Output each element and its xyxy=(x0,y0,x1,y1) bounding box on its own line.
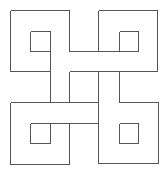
knot-diagram xyxy=(0,0,165,172)
